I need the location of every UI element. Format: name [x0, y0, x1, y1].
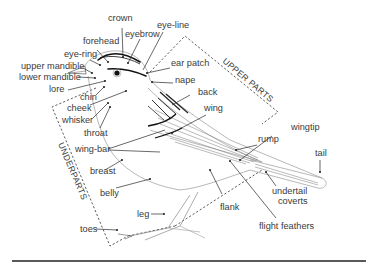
label-wingtip: wingtip	[290, 122, 320, 132]
label-throat: throat	[84, 128, 108, 138]
label-crown: crown	[108, 13, 133, 23]
label-wing-bar: wing-bar	[74, 144, 110, 154]
label-ear-patch: ear patch	[171, 58, 209, 68]
wing-illustration	[148, 88, 262, 164]
label-cheek: cheek	[67, 103, 92, 113]
part-labels: crown forehead eyebrow eye-line eye-ring…	[19, 13, 327, 234]
label-leg: leg	[137, 209, 149, 219]
label-whisker: whisker	[61, 115, 93, 125]
label-nape: nape	[175, 75, 195, 85]
label-flank: flank	[220, 202, 240, 212]
eye	[114, 70, 119, 75]
label-undertail: undertail	[272, 186, 307, 196]
label-eye-line: eye-line	[157, 20, 189, 30]
label-flight-feathers: flight feathers	[259, 221, 315, 231]
label-tail: tail	[315, 148, 327, 158]
label-lore: lore	[49, 84, 64, 94]
label-upper-mandible: upper mandible	[21, 61, 84, 71]
label-lower-mandible: lower mandible	[19, 72, 81, 82]
legs-illustration	[118, 192, 205, 240]
label-eyebrow: eyebrow	[125, 29, 160, 39]
label-eye-ring: eye-ring	[64, 49, 97, 59]
label-forehead: forehead	[83, 36, 119, 46]
label-back: back	[198, 87, 218, 97]
upper-parts-label: UPPER PARTS	[221, 56, 276, 104]
label-breast: breast	[90, 166, 116, 176]
label-coverts: coverts	[278, 196, 308, 206]
label-wing: wing	[203, 103, 223, 113]
bird-anatomy-diagram: UPPER PARTS UNDERPARTS crown fore	[0, 0, 373, 265]
label-rump: rump	[258, 134, 279, 144]
label-belly: belly	[100, 188, 119, 198]
label-toes: toes	[80, 224, 98, 234]
label-chin: chin	[80, 92, 97, 102]
